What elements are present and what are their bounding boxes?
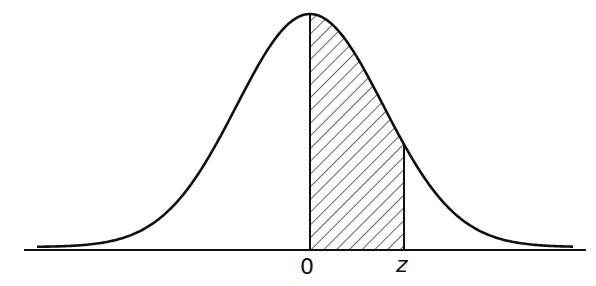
mean-label: 0 — [300, 254, 314, 279]
z-label: z — [396, 252, 408, 277]
bell-curve — [37, 14, 573, 247]
shaded-area — [310, 14, 404, 250]
normal-curve-diagram — [0, 0, 596, 286]
